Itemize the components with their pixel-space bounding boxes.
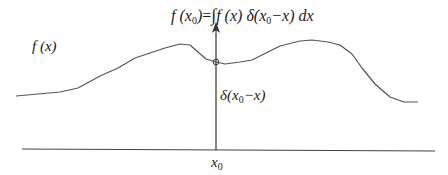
x-axis xyxy=(22,149,435,151)
delta-function-label: δ(x0−x) xyxy=(220,88,265,105)
function-curve xyxy=(16,40,418,102)
sifting-formula: f (x0)=∫f (x) δ(x0−x) dx xyxy=(171,6,314,26)
x0-axis-label: x0 xyxy=(211,155,223,172)
curve-label: f (x) xyxy=(32,39,57,54)
